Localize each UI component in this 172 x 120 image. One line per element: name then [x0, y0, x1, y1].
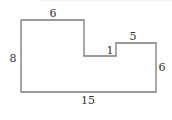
- label-right-height: 6: [159, 61, 166, 74]
- shape-diagram: 6 8 1 5 6 15: [0, 0, 172, 120]
- label-bottom-width: 15: [81, 94, 95, 107]
- label-right-top-width: 5: [130, 30, 137, 43]
- label-top-width: 6: [50, 7, 57, 20]
- label-notch-step: 1: [107, 44, 114, 57]
- label-left-height: 8: [10, 52, 17, 65]
